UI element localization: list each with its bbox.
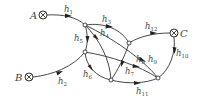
edge-label-h2: h2 [58, 76, 67, 87]
edge-label-h4: h4 [100, 28, 109, 39]
edge-label-h12: h12 [145, 21, 157, 32]
edge-label-h8: h8 [136, 54, 145, 65]
edge-label-h1: h1 [64, 4, 73, 15]
flow-network-diagram: A B C h1 h2 h3 h4 h5 h6 h7 h8 h9 h10 h11… [0, 0, 202, 103]
arrow-h7-icon [121, 60, 125, 67]
edge-label-h11: h11 [136, 86, 148, 97]
terminal-label-a: A [29, 10, 37, 21]
edge-h12 [129, 33, 170, 43]
arrow-h5-icon [86, 36, 90, 43]
edge-h9 [85, 25, 158, 78]
edge-label-h6: h6 [83, 69, 92, 80]
edge-label-h5: h5 [74, 33, 83, 44]
arrow-h11-icon [134, 81, 141, 85]
terminal-label-c: C [180, 28, 188, 39]
terminal-a-icon [39, 11, 47, 19]
junction-node [83, 50, 87, 54]
junction-node [127, 41, 131, 45]
edge-h10 [158, 37, 174, 78]
edge-label-h9: h9 [148, 54, 157, 65]
junction-node [156, 76, 160, 80]
terminal-label-b: B [14, 72, 22, 83]
junction-node [109, 78, 113, 82]
arrow-h2-icon [56, 71, 63, 76]
edge-label-h3: h3 [102, 14, 111, 25]
terminal-c-icon [170, 29, 178, 37]
edge-label-h10: h10 [176, 48, 189, 59]
terminal-b-icon [25, 73, 33, 81]
junction-node [83, 23, 87, 27]
